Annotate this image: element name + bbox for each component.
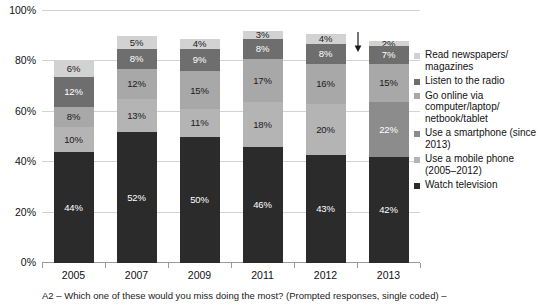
bar-column-2011[interactable]: 3%8%17%18%46% xyxy=(243,31,283,263)
bar-column-2012[interactable]: 4%8%16%20%43% xyxy=(306,34,346,263)
bar-segment[interactable]: 8% xyxy=(306,44,346,64)
bar-segment-value-label: 16% xyxy=(316,79,335,89)
bar-column-2013[interactable]: 2%7%15%22%42% xyxy=(369,41,409,263)
decline-arrow-icon xyxy=(352,31,364,53)
bar-segment-value-label: 13% xyxy=(127,111,146,121)
legend-item-label: Watch television xyxy=(425,179,497,191)
legend-swatch-icon xyxy=(414,79,420,85)
x-axis-label-2009: 2009 xyxy=(188,270,211,281)
bar-segment-value-label: 5% xyxy=(130,38,144,48)
x-axis-tick xyxy=(105,263,106,268)
x-axis-tick xyxy=(357,263,358,268)
legend-item-label: Use a smartphone (since 2013) xyxy=(425,127,538,150)
bar-segment[interactable]: 43% xyxy=(306,155,346,263)
legend-item[interactable]: Use a mobile phone (2005–2012) xyxy=(414,153,538,176)
bar-segment-value-label: 12% xyxy=(64,87,83,97)
bar-segment[interactable]: 12% xyxy=(54,77,94,107)
y-axis-tick-label: 40% xyxy=(15,156,36,167)
y-axis-tick-label: 20% xyxy=(15,206,36,217)
y-axis-tick-label: 0% xyxy=(21,257,36,268)
legend-item[interactable]: Read newspapers/ magazines xyxy=(414,49,538,72)
legend-item-label: Read newspapers/ magazines xyxy=(425,49,538,72)
x-axis-label-2013: 2013 xyxy=(377,270,400,281)
y-axis-tick-label: 60% xyxy=(15,106,36,117)
legend-item-label: Use a mobile phone (2005–2012) xyxy=(425,153,538,176)
bar-segment-value-label: 52% xyxy=(127,193,146,203)
bar-segment[interactable]: 7% xyxy=(369,46,409,64)
bar-segment[interactable]: 9% xyxy=(180,49,220,72)
bar-column-2005[interactable]: 6%12%8%10%44% xyxy=(54,61,94,263)
bar-segment[interactable]: 17% xyxy=(243,59,283,102)
bar-segment[interactable]: 16% xyxy=(306,64,346,104)
bar-segment-value-label: 15% xyxy=(379,78,398,88)
bar-segment[interactable]: 42% xyxy=(369,157,409,263)
x-axis-tick xyxy=(42,263,43,268)
bar-segment-value-label: 8% xyxy=(319,49,333,59)
bar-segment-value-label: 8% xyxy=(256,44,270,54)
bar-segment[interactable]: 11% xyxy=(180,109,220,137)
bar-segment[interactable]: 52% xyxy=(117,132,157,263)
legend-item[interactable]: Watch television xyxy=(414,179,538,191)
bar-segment-value-label: 6% xyxy=(67,64,81,74)
bar-segment-value-label: 12% xyxy=(127,79,146,89)
bar-segment[interactable]: 18% xyxy=(243,102,283,147)
bar-segment[interactable]: 50% xyxy=(180,137,220,263)
bar-segment-value-label: 50% xyxy=(190,195,209,205)
bar-segment[interactable]: 8% xyxy=(117,49,157,69)
x-axis-label-2005: 2005 xyxy=(62,270,85,281)
bar-segment[interactable]: 12% xyxy=(117,69,157,99)
bar-column-2007[interactable]: 5%8%12%13%52% xyxy=(117,36,157,263)
y-axis-tick-label: 80% xyxy=(15,55,36,66)
bar-segment-value-label: 9% xyxy=(193,55,207,65)
bar-segment[interactable]: 3% xyxy=(243,31,283,39)
bar-segment[interactable]: 4% xyxy=(180,39,220,49)
x-axis-tick xyxy=(231,263,232,268)
x-axis-tick xyxy=(294,263,295,268)
bar-segment-value-label: 15% xyxy=(190,86,209,96)
x-axis-tick xyxy=(420,263,421,268)
bar-segment[interactable]: 6% xyxy=(54,61,94,76)
stacked-bar-chart: 0%20%40%60%80%100% 6%12%8%10%44%5%8%12%1… xyxy=(0,0,538,305)
bar-segment[interactable]: 8% xyxy=(243,39,283,59)
bar-segment-value-label: 11% xyxy=(190,118,208,128)
legend-item-label: Listen to the radio xyxy=(425,75,505,87)
legend-item[interactable]: Listen to the radio xyxy=(414,75,538,87)
legend-swatch-icon xyxy=(414,183,420,189)
legend-swatch-icon xyxy=(414,53,420,59)
bar-segment[interactable]: 5% xyxy=(117,36,157,49)
x-axis-label-2011: 2011 xyxy=(251,270,274,281)
legend-item[interactable]: Go online via computer/laptop/ netbook/t… xyxy=(414,90,538,125)
footnote-text: A2 – Which one of these would you miss d… xyxy=(42,290,447,302)
bar-segment[interactable]: 10% xyxy=(54,127,94,152)
bar-segment[interactable]: 13% xyxy=(117,99,157,132)
x-axis-tick xyxy=(168,263,169,268)
bar-segment-value-label: 17% xyxy=(253,76,272,86)
bar-segment-value-label: 10% xyxy=(64,135,83,145)
bar-segment-value-label: 46% xyxy=(253,200,272,210)
x-axis-label-2007: 2007 xyxy=(125,270,148,281)
legend-swatch-icon xyxy=(414,157,420,163)
bar-segment-value-label: 4% xyxy=(193,39,207,49)
bar-segment-value-label: 8% xyxy=(67,112,81,122)
bar-segment[interactable]: 15% xyxy=(369,64,409,102)
bar-segment-value-label: 22% xyxy=(379,125,398,135)
x-axis-label-2012: 2012 xyxy=(314,270,337,281)
legend-swatch-icon xyxy=(414,131,420,137)
legend-item[interactable]: Use a smartphone (since 2013) xyxy=(414,127,538,150)
bar-segment[interactable]: 20% xyxy=(306,104,346,154)
bar-segment[interactable]: 46% xyxy=(243,147,283,263)
bar-segment-value-label: 20% xyxy=(316,125,335,135)
bar-segment[interactable]: 44% xyxy=(54,152,94,263)
bar-segment[interactable]: 4% xyxy=(306,34,346,44)
x-axis: 200520072009201120122013 xyxy=(42,263,420,285)
legend-swatch-icon xyxy=(414,93,420,99)
bar-segment-value-label: 42% xyxy=(379,205,398,215)
bar-segment[interactable]: 22% xyxy=(369,102,409,157)
legend: Read newspapers/ magazinesListen to the … xyxy=(414,49,538,194)
bar-segment-value-label: 44% xyxy=(64,203,83,213)
bar-column-2009[interactable]: 4%9%15%11%50% xyxy=(180,39,220,263)
bar-segment[interactable]: 15% xyxy=(180,71,220,109)
bar-segment[interactable]: 8% xyxy=(54,107,94,127)
bar-segment-value-label: 7% xyxy=(382,50,396,60)
bar-segment-value-label: 43% xyxy=(316,204,335,214)
